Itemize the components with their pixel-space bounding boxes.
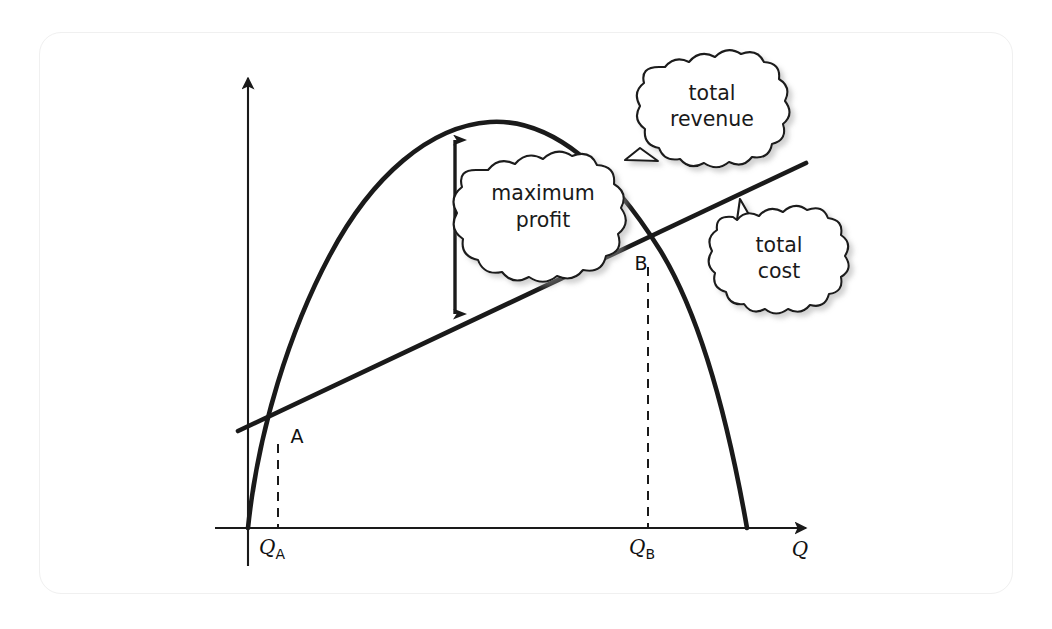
total-cost-label-line1: total xyxy=(756,233,803,257)
maximum-profit-label-line2: profit xyxy=(516,208,570,232)
maximum-profit-label-line1: maximum xyxy=(491,181,594,205)
point-label-a: A xyxy=(291,425,304,447)
figure-root: A B QA QB Q total revenue maximum profit xyxy=(0,0,1052,629)
tick-qb-sub: B xyxy=(645,546,655,562)
total-revenue-tail xyxy=(625,148,658,161)
svg-text:QB: QB xyxy=(629,535,655,562)
economics-diagram: A B QA QB Q total revenue maximum profit xyxy=(0,0,1052,629)
total-revenue-label-line2: revenue xyxy=(670,107,754,131)
tick-label-qb: QB xyxy=(629,535,655,562)
svg-text:QA: QA xyxy=(259,535,285,562)
tick-qa-base: Q xyxy=(259,535,275,559)
x-axis-label: Q xyxy=(792,537,808,561)
total-revenue-label-line1: total xyxy=(689,81,736,105)
tick-qa-sub: A xyxy=(275,546,285,562)
point-label-b: B xyxy=(634,252,647,274)
total-cost-label-line2: cost xyxy=(758,259,801,283)
tick-qb-base: Q xyxy=(629,535,645,559)
tick-label-qa: QA xyxy=(259,535,285,562)
